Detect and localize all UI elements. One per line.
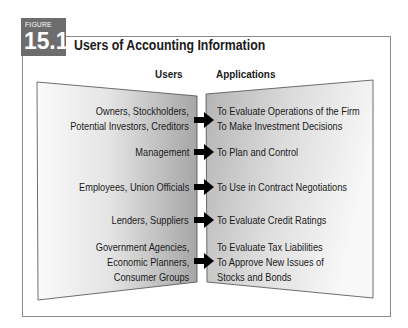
users-row-1: Owners, Stockholders, Potential Investor…	[70, 104, 189, 134]
panels-diagram	[0, 0, 408, 328]
applications-row-4: To Evaluate Credit Ratings	[217, 213, 326, 228]
users-row-3: Employees, Union Officials	[79, 180, 189, 195]
applications-row-1: To Evaluate Operations of the Firm To Ma…	[217, 104, 360, 134]
applications-row-5: To Evaluate Tax Liabilities To Approve N…	[217, 240, 324, 285]
users-row-5: Government Agencies, Economic Planners, …	[96, 240, 189, 285]
applications-row-3: To Use in Contract Negotiations	[217, 180, 347, 195]
users-row-4: Lenders, Suppliers	[112, 213, 189, 228]
users-row-2: Management	[135, 145, 189, 160]
applications-row-2: To Plan and Control	[217, 145, 298, 160]
